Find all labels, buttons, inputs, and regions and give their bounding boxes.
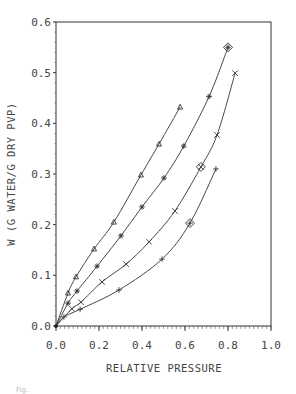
y-tick-label: 0.4	[31, 117, 51, 130]
x-tick-label: 0.4	[132, 339, 152, 352]
y-tick-label: 0.6	[31, 16, 51, 29]
series-cross	[54, 70, 237, 327]
y-axis-ticks: 0.00.10.20.30.40.50.6	[31, 16, 56, 333]
x-axis-title: RELATIVE PRESSURE	[106, 362, 222, 374]
y-tick-label: 0.2	[31, 219, 51, 232]
series-line	[56, 107, 180, 326]
sorption-isotherm-chart: 0.00.10.20.30.40.50.6 0.00.20.40.60.81.0…	[0, 0, 296, 394]
x-tick-label: 0.6	[175, 339, 195, 352]
figure-caption: Fig.	[16, 386, 28, 394]
star-marker-icon	[65, 300, 71, 306]
x-marker-icon	[214, 132, 220, 138]
x-tick-label: 1.0	[261, 339, 281, 352]
x-tick-label: 0.2	[89, 339, 109, 352]
y-axis-title: W (G WATER/G DRY PVP)	[5, 102, 17, 245]
y-tick-label: 0.0	[31, 320, 51, 333]
series-line	[56, 47, 228, 326]
x-tick-label: 0.8	[218, 339, 238, 352]
x-marker-icon	[172, 208, 178, 214]
y-tick-label: 0.3	[31, 168, 51, 181]
x-marker-icon	[78, 299, 84, 305]
plus-marker-icon	[116, 287, 122, 293]
origin-point	[54, 324, 57, 327]
series-line	[56, 73, 235, 326]
x-marker-icon	[99, 279, 105, 285]
x-tick-label: 0.0	[46, 339, 66, 352]
star-marker-icon	[74, 288, 80, 294]
x-marker-icon	[146, 239, 152, 245]
star-marker-icon	[118, 233, 124, 239]
triangle-marker-icon	[178, 104, 183, 109]
star-marker-icon	[206, 94, 212, 100]
star-marker-icon	[181, 143, 187, 149]
x-marker-icon	[69, 306, 75, 312]
diamond-annotations	[185, 43, 232, 228]
plus-marker-icon	[213, 166, 219, 172]
x-axis-ticks: 0.00.20.40.60.81.0	[46, 326, 281, 352]
data-series	[54, 45, 237, 328]
y-tick-label: 0.1	[31, 269, 51, 282]
star-marker-icon	[161, 175, 167, 181]
x-marker-icon	[232, 70, 238, 76]
plus-marker-icon	[77, 306, 83, 312]
series-star	[54, 45, 230, 328]
series-triangle	[54, 104, 182, 327]
plot-frame-rect	[56, 22, 271, 326]
y-tick-label: 0.5	[31, 67, 51, 80]
plot-frame	[56, 22, 271, 326]
x-marker-icon	[123, 261, 129, 267]
